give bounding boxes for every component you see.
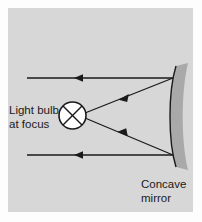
concave-mirror-label-line1: Concave	[141, 178, 186, 190]
concave-mirror-label-line2: mirror	[141, 192, 171, 204]
optics-ray-diagram: Light bulb at focus Concave mirror	[0, 0, 202, 222]
figure-root: Light bulb at focus Concave mirror	[0, 0, 202, 222]
light-bulb-label-line2: at focus	[9, 118, 50, 130]
light-bulb-label-line1: Light bulb	[9, 104, 59, 116]
